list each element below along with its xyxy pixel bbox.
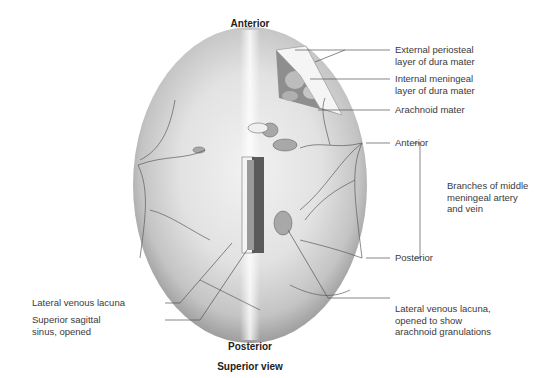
label-superior-sagittal-sinus: Superior sagittal sinus, opened — [32, 314, 101, 337]
label-mma-group: Branches of middle meningeal artery and … — [447, 180, 528, 215]
label-internal-meningeal: Internal meningeal layer of dura mater — [395, 73, 475, 96]
figure-caption: Superior view — [205, 361, 295, 372]
label-arachnoid-mater: Arachnoid mater — [395, 104, 465, 116]
label-mma-posterior: Posterior — [395, 252, 433, 264]
label-lateral-lacuna-opened: Lateral venous lacuna, opened to show ar… — [395, 303, 491, 338]
orientation-posterior: Posterior — [220, 341, 280, 352]
sagittal-sinus-opened — [242, 157, 264, 253]
orientation-anterior: Anterior — [220, 18, 280, 29]
label-mma-anterior: Anterior — [395, 137, 428, 149]
label-lateral-venous-lacuna: Lateral venous lacuna — [32, 297, 125, 309]
label-external-periosteal: External periosteal layer of dura mater — [395, 44, 475, 67]
